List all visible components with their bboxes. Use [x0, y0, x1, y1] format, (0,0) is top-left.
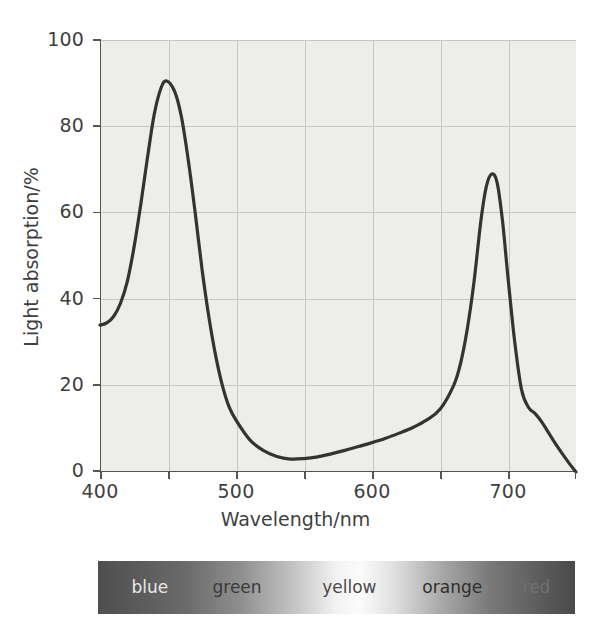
ytick-mark-60 — [93, 212, 101, 214]
visible-spectrum-bar: blue green yellow orange red — [98, 561, 575, 614]
xtick-mark-500 — [236, 472, 238, 479]
xtick-label-500: 500 — [201, 480, 271, 502]
xtick-label-400: 400 — [65, 480, 135, 502]
spectrum-label-red: red — [523, 577, 551, 597]
ytick-mark-40 — [93, 298, 101, 300]
ytick-mark-20 — [93, 384, 101, 386]
xtick-mark-550 — [304, 472, 306, 479]
xtick-mark-700 — [508, 472, 510, 479]
absorption-curve-path — [100, 81, 576, 472]
spectrum-label-green: green — [212, 577, 261, 597]
xtick-mark-400 — [100, 472, 102, 479]
absorption-curve — [100, 40, 576, 472]
spectrum-label-orange: orange — [422, 577, 482, 597]
ytick-mark-0 — [93, 470, 101, 472]
spectrum-label-blue: blue — [131, 577, 168, 597]
ytick-mark-100 — [93, 39, 101, 41]
spectrum-label-yellow: yellow — [322, 577, 376, 597]
xtick-mark-600 — [372, 472, 374, 479]
xtick-mark-450 — [168, 472, 170, 479]
x-axis-title: Wavelength/nm — [0, 508, 591, 530]
xtick-label-700: 700 — [473, 480, 543, 502]
xtick-mark-750 — [575, 472, 577, 479]
ytick-label-100: 100 — [24, 28, 84, 50]
xtick-mark-650 — [440, 472, 442, 479]
ytick-mark-80 — [93, 125, 101, 127]
xtick-label-600: 600 — [337, 480, 407, 502]
ytick-label-0: 0 — [24, 459, 84, 481]
absorption-spectrum-figure: 400 500 600 700 100 80 60 40 20 0 Wavele… — [0, 0, 591, 639]
y-axis-title: Light absorption/% — [20, 92, 42, 422]
